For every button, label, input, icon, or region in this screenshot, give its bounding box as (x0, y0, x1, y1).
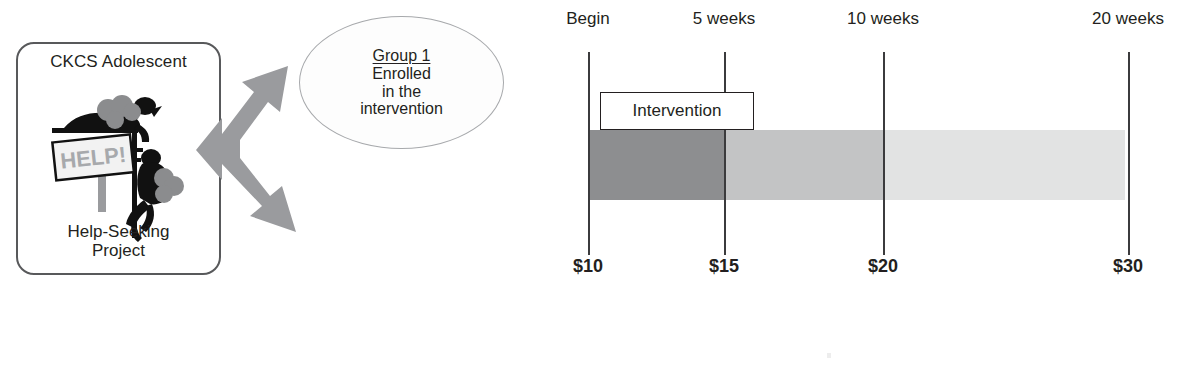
group-1-callout: Group 1 Enrolled in the intervention (299, 16, 504, 149)
timeline-bottom-label-1: $15 (709, 256, 739, 277)
timeline-top-label-0: Begin (566, 9, 609, 29)
timeline-top-label-1: 5 weeks (693, 9, 755, 29)
timeline-segment-5-to-10-weeks (724, 130, 883, 200)
timeline-bottom-label-2: $20 (868, 256, 898, 277)
callout-body-line3: intervention (360, 100, 443, 118)
timeline-segment-begin-to-5-weeks (588, 130, 724, 200)
callout-body-line2: in the (382, 83, 421, 101)
timeline-tick-line-3 (1128, 52, 1130, 255)
logo-subtitle-line2: Project (18, 241, 219, 261)
study-timeline: Begin$105 weeks$1510 weeks$2020 weeks$30… (540, 0, 1178, 300)
callout-title: Group 1 (373, 47, 431, 65)
logo-subtitle: Help-Seeking Project (18, 222, 219, 261)
timeline-segment-10-to-20-weeks (883, 130, 1125, 200)
page-artifact-speck (827, 353, 831, 358)
intervention-label-box: Intervention (600, 92, 754, 130)
callout-body-line1: Enrolled (372, 65, 431, 83)
three-way-arrow (196, 58, 316, 243)
timeline-tick-line-0 (588, 52, 590, 255)
timeline-bottom-label-0: $10 (573, 256, 603, 277)
timeline-top-label-2: 10 weeks (847, 9, 919, 29)
timeline-top-label-3: 20 weeks (1092, 9, 1164, 29)
climbers-illustration: HELP! (46, 72, 196, 244)
timeline-tick-line-2 (883, 52, 885, 255)
timeline-bottom-label-3: $30 (1113, 256, 1143, 277)
timeline-tick-line-1 (724, 52, 726, 255)
logo-title: CKCS Adolescent (18, 52, 219, 72)
diagram-canvas: CKCS Adolescent (0, 0, 1178, 379)
ckcs-logo-card: CKCS Adolescent (16, 42, 221, 275)
logo-subtitle-line1: Help-Seeking (18, 222, 219, 242)
three-way-arrow-icon (196, 58, 316, 243)
